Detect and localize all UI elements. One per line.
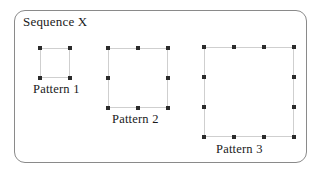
pattern-3-dot [262,135,266,139]
pattern-2-dot [166,46,170,50]
sequence-figure: Sequence X Pattern 1Pattern 2Pattern 3 [0,0,321,175]
pattern-2-label: Pattern 2 [112,112,159,127]
pattern-3-dot [202,135,206,139]
pattern-1-dot [38,46,42,50]
pattern-3-dot [292,45,296,49]
pattern-2-dot [106,46,110,50]
pattern-3-dot [292,135,296,139]
pattern-3-dot [202,75,206,79]
pattern-1-square [40,48,70,78]
figure-title: Sequence X [23,14,87,30]
pattern-1-label: Pattern 1 [33,82,80,97]
pattern-2-dot [106,76,110,80]
pattern-2-dot [106,106,110,110]
pattern-1-dot [68,76,72,80]
pattern-2-dot [136,46,140,50]
pattern-3-dot [292,75,296,79]
pattern-1-dot [68,46,72,50]
pattern-3-dot [232,45,236,49]
pattern-3-dot [292,105,296,109]
pattern-1-dot [38,76,42,80]
pattern-2-dot [136,106,140,110]
pattern-3-dot [232,135,236,139]
pattern-3-label: Pattern 3 [216,142,263,157]
pattern-3-dot [202,45,206,49]
pattern-3-dot [262,45,266,49]
pattern-2-square [108,48,168,108]
pattern-3-dot [202,105,206,109]
pattern-2-dot [166,106,170,110]
pattern-2-dot [166,76,170,80]
pattern-3-square [204,47,294,137]
